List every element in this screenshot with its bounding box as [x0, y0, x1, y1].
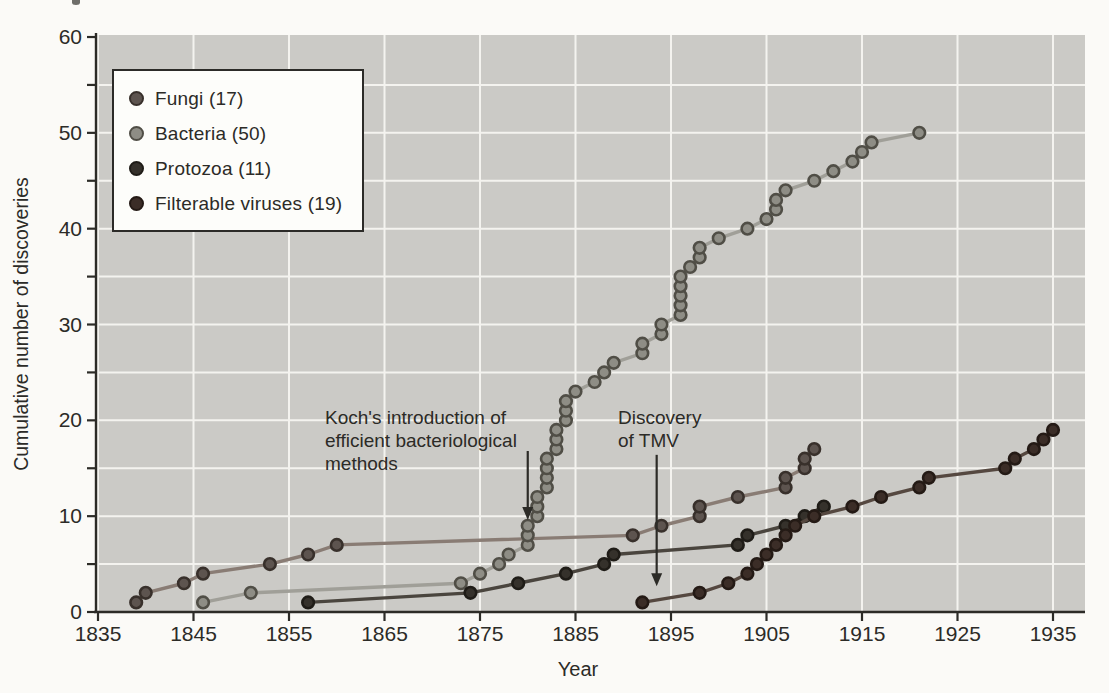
svg-text:20: 20 — [59, 408, 82, 431]
svg-text:1835: 1835 — [75, 622, 122, 645]
svg-text:40: 40 — [59, 217, 82, 240]
annotation-koch-methods: Koch's introduction of efficient bacteri… — [325, 406, 517, 475]
svg-text:60: 60 — [59, 25, 82, 48]
legend-label-bacteria: Bacteria (50) — [155, 123, 266, 145]
legend-label-viruses: Filterable viruses (19) — [155, 193, 342, 215]
figure-canvas: 1835184518551865187518851895190519151925… — [0, 0, 1109, 693]
svg-text:30: 30 — [59, 313, 82, 336]
svg-text:1845: 1845 — [170, 622, 217, 645]
svg-text:1925: 1925 — [934, 622, 981, 645]
svg-text:1885: 1885 — [552, 622, 599, 645]
svg-text:1875: 1875 — [457, 622, 504, 645]
legend-item-protozoa: Protozoa (11) — [129, 154, 342, 183]
svg-text:1855: 1855 — [266, 622, 313, 645]
svg-text:1865: 1865 — [361, 622, 408, 645]
svg-text:0: 0 — [70, 600, 82, 623]
svg-text:1905: 1905 — [743, 622, 790, 645]
protozoa-dot-icon — [129, 161, 144, 176]
svg-text:10: 10 — [59, 504, 82, 527]
x-axis-title: Year — [558, 658, 598, 681]
viruses-dot-icon — [129, 196, 144, 211]
fungi-dot-icon — [129, 91, 144, 106]
svg-text:1915: 1915 — [839, 622, 886, 645]
svg-text:1895: 1895 — [648, 622, 695, 645]
legend-label-protozoa: Protozoa (11) — [155, 158, 271, 180]
svg-text:1935: 1935 — [1030, 622, 1077, 645]
legend-label-fungi: Fungi (17) — [155, 88, 244, 110]
legend-item-fungi: Fungi (17) — [129, 84, 342, 113]
bacteria-dot-icon — [129, 126, 144, 141]
annotation-tmv-discovery: Discovery of TMV — [618, 406, 701, 452]
y-axis-title: Cumulative number of discoveries — [10, 177, 33, 471]
legend-item-viruses: Filterable viruses (19) — [129, 189, 342, 218]
legend-box: Fungi (17) Bacteria (50) Protozoa (11) F… — [112, 69, 364, 232]
legend-item-bacteria: Bacteria (50) — [129, 119, 342, 148]
svg-text:50: 50 — [59, 121, 82, 144]
